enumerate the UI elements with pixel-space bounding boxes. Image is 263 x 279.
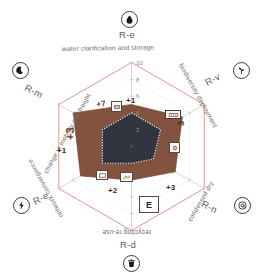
radar-chart-svg: 246810: [0, 0, 263, 279]
annotation-three-right: 3: [176, 121, 186, 126]
annotation-plus-seven: +7: [96, 99, 106, 109]
water-droplet-icon: [121, 11, 138, 28]
at-sign-icon: [234, 197, 251, 214]
mini-pictogram-bar-right: [165, 110, 181, 119]
annotation-plus-one-network: +1: [57, 146, 66, 155]
crescent-moon-icon: [12, 62, 29, 79]
annotation-plus-one-top: +1: [126, 96, 135, 105]
radar-chart-container: 246810 R-e water clarification and stora…: [0, 0, 263, 279]
plant-sprout-icon: [233, 62, 250, 79]
mini-pictogram-icon-bottom-left: [96, 170, 108, 180]
axis-label-code-r-e-top: R-e: [119, 29, 135, 40]
svg-text:8: 8: [136, 77, 140, 83]
marker-box-e: E: [139, 196, 159, 213]
annotation-plus-two-bottom: +2: [108, 186, 117, 195]
annotation-plus-three-left: +3: [64, 127, 76, 140]
axis-label-code-r-d: R-d: [120, 239, 136, 250]
axis-label-desc-recycling-reuse: recycling re-use: [102, 229, 151, 236]
svg-text:10: 10: [136, 60, 143, 66]
mini-pictogram-icon-bottom-center: [120, 172, 133, 182]
mini-pictogram-icon-right: [169, 142, 180, 153]
svg-text:6: 6: [136, 93, 140, 99]
annotation-plus-three-lower-right: +3: [166, 183, 175, 192]
lightning-bolt-icon: [13, 197, 30, 214]
mini-pictogram-icon-top-left: [111, 101, 122, 112]
trash-bin-icon: [123, 255, 140, 272]
